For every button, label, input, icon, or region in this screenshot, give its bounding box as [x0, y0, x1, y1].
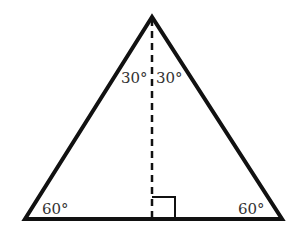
- angle-label-base-left: 60°: [42, 200, 69, 218]
- triangle: [25, 17, 282, 219]
- right-angle-marker: [152, 197, 175, 219]
- triangle-diagram: 30° 30° 60° 60°: [0, 0, 300, 236]
- angle-label-apex-left: 30°: [121, 69, 148, 87]
- angle-label-base-right: 60°: [238, 200, 265, 218]
- angle-label-apex-right: 30°: [156, 69, 183, 87]
